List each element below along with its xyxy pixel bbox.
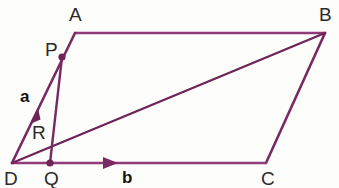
point-label-B: B	[319, 5, 332, 24]
diagram-canvas	[0, 0, 339, 188]
diagonal-DB	[12, 33, 325, 163]
geometry-figure: A B C D P Q R a b	[0, 0, 339, 188]
point-label-A: A	[69, 5, 82, 24]
point-dot-Q	[46, 159, 53, 166]
vector-label-a: a	[20, 88, 29, 105]
side-BC	[266, 33, 325, 163]
vector-label-b: b	[122, 169, 132, 186]
point-label-Q: Q	[44, 169, 59, 188]
point-label-D: D	[4, 169, 18, 188]
point-label-R: R	[32, 123, 46, 142]
point-label-C: C	[261, 169, 275, 188]
vector-b-arrowhead	[103, 157, 118, 169]
point-label-P: P	[45, 40, 58, 59]
point-dot-P	[58, 53, 65, 60]
